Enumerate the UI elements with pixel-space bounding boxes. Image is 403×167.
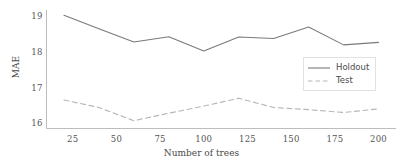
series-line-holdout bbox=[64, 15, 379, 51]
y-tick-label: 16 bbox=[31, 118, 42, 128]
x-tick-label: 50 bbox=[111, 134, 122, 144]
x-axis-title: Number of trees bbox=[0, 148, 403, 158]
x-tick-label: 125 bbox=[239, 134, 256, 144]
chart-figure: 16171819 255075100125150175200 MAE Numbe… bbox=[0, 0, 403, 167]
legend-swatch-dashed-icon bbox=[308, 77, 330, 85]
legend-label-holdout: Holdout bbox=[336, 63, 369, 72]
y-tick-label: 19 bbox=[31, 11, 42, 21]
x-tick-label: 75 bbox=[154, 134, 165, 144]
legend-swatch-solid-icon bbox=[308, 64, 330, 72]
legend-label-test: Test bbox=[336, 76, 353, 85]
x-tick-label: 200 bbox=[370, 134, 387, 144]
series-line-test bbox=[64, 98, 379, 120]
legend-item-test: Test bbox=[308, 74, 369, 87]
x-tick-label: 100 bbox=[195, 134, 212, 144]
y-axis-title: MAE bbox=[11, 37, 21, 97]
x-tick-label: 175 bbox=[326, 134, 343, 144]
chart-legend: Holdout Test bbox=[303, 57, 376, 91]
x-tick-label: 25 bbox=[67, 134, 78, 144]
legend-item-holdout: Holdout bbox=[308, 61, 369, 74]
y-tick-label: 18 bbox=[31, 47, 42, 57]
x-tick-label: 150 bbox=[283, 134, 300, 144]
y-tick-label: 17 bbox=[31, 83, 42, 93]
